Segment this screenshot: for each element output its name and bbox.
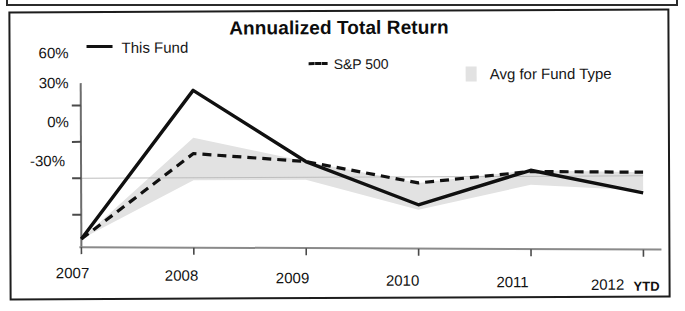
- y-axis-line: [81, 83, 82, 247]
- legend-label-this-fund: This Fund: [121, 39, 188, 56]
- avg-fund-type-band: [81, 136, 643, 239]
- upper-panel-edge: [6, 0, 678, 6]
- y-axis-ticks: [72, 105, 81, 214]
- legend-item-this-fund: This Fund: [86, 39, 188, 56]
- x-axis-line: [79, 245, 661, 253]
- x-axis-ytd-note: YTD: [634, 279, 660, 294]
- x-tick-label-2011: 2011: [485, 273, 541, 290]
- chart-panel: Annualized Total Return This Fund S&P 50…: [8, 9, 670, 301]
- solid-line-swatch-icon: [87, 45, 113, 48]
- x-tick-label-2012: 2012: [580, 276, 636, 293]
- x-tick-label-2010: 2010: [375, 272, 431, 289]
- plot-area: [25, 71, 666, 274]
- chart-screenshot: Annualized Total Return This Fund S&P 50…: [0, 0, 685, 311]
- legend-item-sp500: S&P 500: [309, 56, 389, 72]
- y-tick-label-60: 60%: [11, 44, 69, 61]
- plot-svg: [25, 71, 666, 274]
- chart-title: Annualized Total Return: [10, 16, 667, 41]
- dashed-line-swatch-icon: [309, 62, 328, 65]
- legend-label-sp500: S&P 500: [334, 56, 389, 72]
